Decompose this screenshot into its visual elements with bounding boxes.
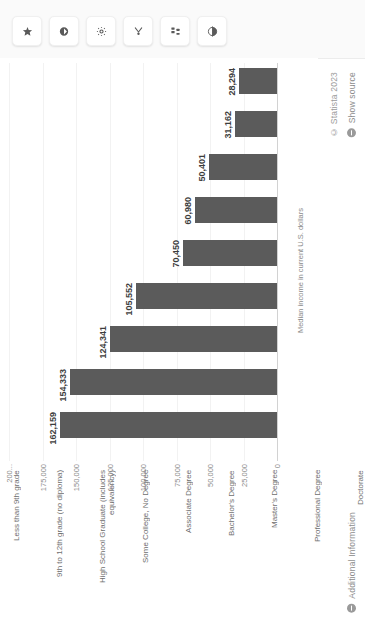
category-label: 9th to 12th grade (no diploma) <box>55 470 64 605</box>
category-label: Master's Degree <box>270 470 279 605</box>
category-label: Doctorate <box>356 470 365 605</box>
bar-row[interactable] <box>235 111 277 137</box>
bar-row[interactable] <box>239 68 277 94</box>
bar[interactable] <box>70 369 277 395</box>
bar-row[interactable] <box>195 197 277 223</box>
tick-label: 125,000 <box>106 464 115 491</box>
tick-label: 200... <box>5 464 14 483</box>
bar[interactable] <box>136 283 277 309</box>
category-label: Associate Degree <box>184 470 193 605</box>
tick-label: 0 <box>273 464 282 468</box>
bar-row[interactable] <box>183 240 277 266</box>
copyright-label: © Statista 2023 <box>329 72 339 137</box>
bar[interactable] <box>235 111 277 137</box>
share-icon <box>133 26 144 37</box>
category-label: Bachelor's Degree <box>227 470 236 605</box>
bar-value-label: 28,294 <box>227 68 237 96</box>
bar[interactable] <box>209 154 277 180</box>
gear-icon <box>96 26 107 37</box>
favorite-button[interactable] <box>12 16 42 46</box>
bar-value-label: 162,159 <box>48 412 58 445</box>
tick-label: 175,000 <box>39 464 48 491</box>
settings-button[interactable] <box>86 16 116 46</box>
bookmark-icon <box>59 26 69 37</box>
share-button[interactable] <box>123 16 153 46</box>
download-button[interactable] <box>160 16 190 46</box>
category-axis-line <box>277 63 278 461</box>
tick-label: 25,000 <box>240 464 249 487</box>
info-icon <box>348 128 357 137</box>
bookmark-button[interactable] <box>49 16 79 46</box>
category-label: Professional Degree <box>313 470 322 605</box>
value-axis-title: Median income in current U.S. dollars <box>296 208 305 333</box>
star-icon <box>22 26 33 37</box>
bar-value-label: 124,341 <box>98 326 108 359</box>
tick-label: 50,000 <box>206 464 215 487</box>
tick-label: 75,000 <box>173 464 182 487</box>
bar[interactable] <box>239 68 277 94</box>
bar[interactable] <box>195 197 277 223</box>
bar-chart: 28,29431,16250,40160,98070,450105,552124… <box>0 58 318 621</box>
gridline <box>110 63 111 461</box>
bar-row[interactable] <box>70 369 277 395</box>
gridline <box>143 63 144 461</box>
bar-value-label: 50,401 <box>197 154 207 182</box>
show-source-button[interactable]: Show source <box>347 72 357 137</box>
bar-value-label: 105,552 <box>124 283 134 316</box>
gridline <box>9 63 10 461</box>
gridline <box>43 63 44 461</box>
show-source-label: Show source <box>347 72 357 123</box>
gridline <box>76 63 77 461</box>
tick-label: 100,000 <box>139 464 148 491</box>
bar-row[interactable] <box>60 412 277 438</box>
info-icon <box>348 604 357 613</box>
bar-value-label: 60,980 <box>183 197 193 225</box>
bar[interactable] <box>110 326 277 352</box>
category-label: Less than 9th grade <box>12 470 21 605</box>
contrast-icon <box>207 26 218 37</box>
bar-row[interactable] <box>209 154 277 180</box>
bar-value-label: 154,333 <box>58 369 68 402</box>
top-toolbar <box>0 0 365 59</box>
bar[interactable] <box>60 412 277 438</box>
bar-row[interactable] <box>110 326 277 352</box>
bar[interactable] <box>183 240 277 266</box>
bar-value-label: 70,450 <box>171 240 181 268</box>
tick-label: 150,000 <box>72 464 81 491</box>
bar-row[interactable] <box>136 283 277 309</box>
download-icon <box>170 26 181 37</box>
contrast-button[interactable] <box>197 16 227 46</box>
bar-value-label: 31,162 <box>223 111 233 139</box>
